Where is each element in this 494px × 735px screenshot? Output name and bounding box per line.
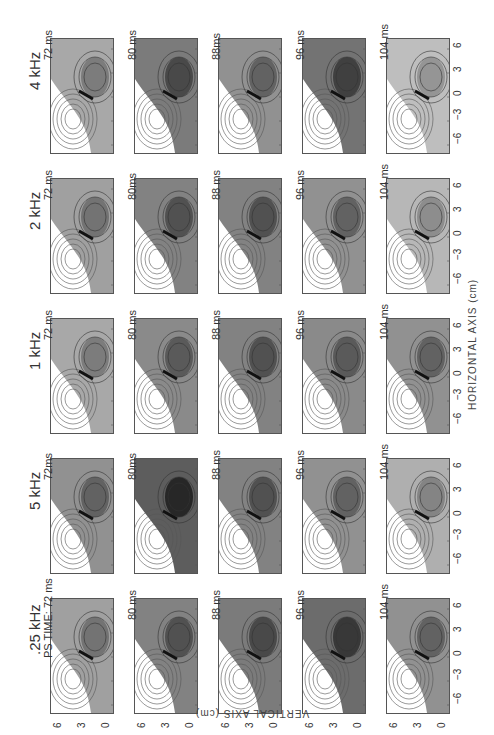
horizontal-axis-label: HORIZONTAL AXIS (cm) <box>467 279 478 410</box>
vertical-tick: 6 <box>388 722 399 728</box>
contour-panel-2khz-col4 <box>302 178 366 294</box>
contour-panel-1khz-col1 <box>50 318 114 434</box>
horizontal-tick: −6 <box>452 693 463 704</box>
time-label: 72 ms <box>42 30 54 60</box>
horizontal-tick: −3 <box>452 389 463 400</box>
vertical-tick: 0 <box>352 722 363 728</box>
vertical-tick: 3 <box>244 722 255 728</box>
time-label: 96 ms <box>294 450 306 480</box>
contour-panel-4khz-col2 <box>134 38 198 154</box>
contour-panel-1khz-col4 <box>302 318 366 434</box>
time-label: 88 ms <box>210 590 222 620</box>
vertical-tick: 0 <box>436 722 447 728</box>
row-label-2khz: 2 kHz <box>26 192 43 230</box>
vertical-tick: 3 <box>412 722 423 728</box>
vertical-tick: 3 <box>76 722 87 728</box>
time-label: 80ms <box>126 173 138 200</box>
horizontal-tick: −6 <box>452 553 463 564</box>
vertical-tick: 0 <box>268 722 279 728</box>
vertical-tick: 6 <box>304 722 315 728</box>
row-label-5khz: 5 kHz <box>26 472 43 510</box>
horizontal-tick: 0 <box>452 370 463 376</box>
contour-panel-025khz-col1 <box>50 598 114 714</box>
horizontal-tick: 6 <box>452 602 463 608</box>
time-label: 96 ms <box>294 170 306 200</box>
vertical-tick: 6 <box>136 722 147 728</box>
horizontal-tick: 0 <box>452 650 463 656</box>
horizontal-tick: 0 <box>452 510 463 516</box>
horizontal-tick: 6 <box>452 42 463 48</box>
horizontal-tick: 6 <box>452 462 463 468</box>
vertical-tick: 3 <box>160 722 171 728</box>
time-label: 96 ms <box>294 30 306 60</box>
contour-panel-1khz-col5 <box>386 318 450 434</box>
contour-panel-025khz-col2 <box>134 598 198 714</box>
contour-panel-025khz-col4 <box>302 598 366 714</box>
row-label-1khz: 1 kHz <box>26 332 43 370</box>
contour-panel-2khz-col2 <box>134 178 198 294</box>
vertical-tick: 3 <box>328 722 339 728</box>
vertical-tick: 0 <box>100 722 111 728</box>
vertical-axis-label: VERTICAL AXIS (cm) <box>195 708 309 719</box>
time-label: 88 ms <box>210 450 222 480</box>
time-label: 72ms <box>42 453 54 480</box>
horizontal-tick: 0 <box>452 90 463 96</box>
contour-panel-025khz-col5 <box>386 598 450 714</box>
contour-panel-2khz-col5 <box>386 178 450 294</box>
time-label: 104 ms <box>378 444 390 480</box>
contour-panel-5khz-col1 <box>50 458 114 574</box>
horizontal-tick: −3 <box>452 249 463 260</box>
time-label: 104 ms <box>378 164 390 200</box>
horizontal-tick: 6 <box>452 182 463 188</box>
contour-panel-4khz-col3 <box>218 38 282 154</box>
time-label: 104 ms <box>378 24 390 60</box>
time-label: 104 ms <box>378 304 390 340</box>
horizontal-tick: −3 <box>452 529 463 540</box>
contour-panel-1khz-col2 <box>134 318 198 434</box>
horizontal-tick: 3 <box>452 346 463 352</box>
contour-panel-4khz-col1 <box>50 38 114 154</box>
time-label: 72 ms <box>42 310 54 340</box>
time-label: 104 ms <box>378 584 390 620</box>
horizontal-tick: 3 <box>452 486 463 492</box>
horizontal-tick: −6 <box>452 133 463 144</box>
time-label: 88 ms <box>210 170 222 200</box>
horizontal-tick: −3 <box>452 669 463 680</box>
horizontal-tick: 0 <box>452 230 463 236</box>
time-label: 80 ms <box>126 590 138 620</box>
contour-panel-1khz-col3 <box>218 318 282 434</box>
horizontal-tick: −6 <box>452 273 463 284</box>
time-label: 72 ms <box>42 170 54 200</box>
contour-panel-025khz-col3 <box>218 598 282 714</box>
contour-panel-5khz-col4 <box>302 458 366 574</box>
vertical-tick: 0 <box>184 722 195 728</box>
horizontal-tick: 3 <box>452 626 463 632</box>
vertical-tick: 6 <box>220 722 231 728</box>
vertical-tick: 6 <box>52 722 63 728</box>
time-label: 80ms <box>126 453 138 480</box>
contour-panel-4khz-col4 <box>302 38 366 154</box>
contour-panel-2khz-col1 <box>50 178 114 294</box>
contour-panel-5khz-col2 <box>134 458 198 574</box>
time-label: 80 ms <box>126 310 138 340</box>
time-label: 96 ms <box>294 590 306 620</box>
time-label: 96 ms <box>294 310 306 340</box>
time-label: 88 ms <box>210 310 222 340</box>
horizontal-tick: −6 <box>452 413 463 424</box>
time-label: 80 ms <box>126 30 138 60</box>
contour-panel-2khz-col3 <box>218 178 282 294</box>
row-label-4khz: 4 kHz <box>26 52 43 90</box>
contour-panel-4khz-col5 <box>386 38 450 154</box>
horizontal-tick: −3 <box>452 109 463 120</box>
row-label-025khz: .25 kHz <box>26 604 43 655</box>
horizontal-tick: 3 <box>452 206 463 212</box>
contour-panel-5khz-col3 <box>218 458 282 574</box>
horizontal-tick: 3 <box>452 66 463 72</box>
horizontal-tick: 6 <box>452 322 463 328</box>
time-label: PS TIME: 72 ms <box>42 578 54 658</box>
contour-panel-5khz-col5 <box>386 458 450 574</box>
time-label: 88ms <box>210 33 222 60</box>
